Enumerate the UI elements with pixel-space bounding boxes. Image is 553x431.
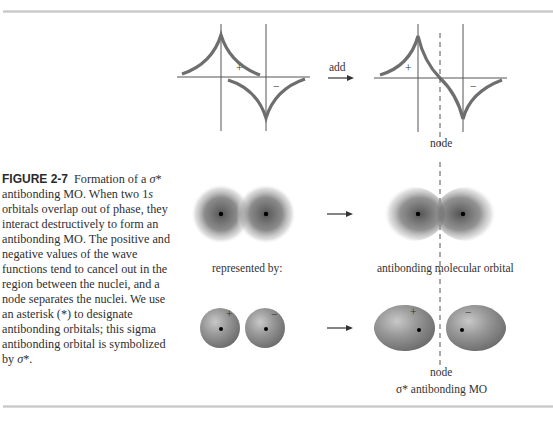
mo-diagram <box>0 0 553 431</box>
lobe-right-plus: + <box>410 306 417 318</box>
add-arrow <box>328 75 354 81</box>
add-label: add <box>329 61 346 73</box>
left-wave-plot <box>177 24 310 131</box>
sigma-star-caption: σ* antibonding MO <box>396 383 487 395</box>
lobe-right-minus: − <box>465 306 472 318</box>
represented-by-label: represented by: <box>212 262 283 274</box>
lobe-left-minus: − <box>271 308 278 320</box>
node-label-top: node <box>430 137 452 149</box>
lobe-arrow <box>327 325 353 331</box>
density-arrow <box>327 211 353 217</box>
lobe-left-plus: + <box>226 308 233 320</box>
density-right <box>379 187 501 241</box>
antibonding-mo-label: antibonding molecular orbital <box>377 262 514 274</box>
left-minus-sign: − <box>273 80 280 92</box>
density-left <box>191 184 296 244</box>
right-minus-sign: − <box>470 80 477 92</box>
node-label-bottom: node <box>430 366 452 378</box>
left-plus-sign: + <box>236 62 243 74</box>
right-plus-sign: + <box>405 62 412 74</box>
